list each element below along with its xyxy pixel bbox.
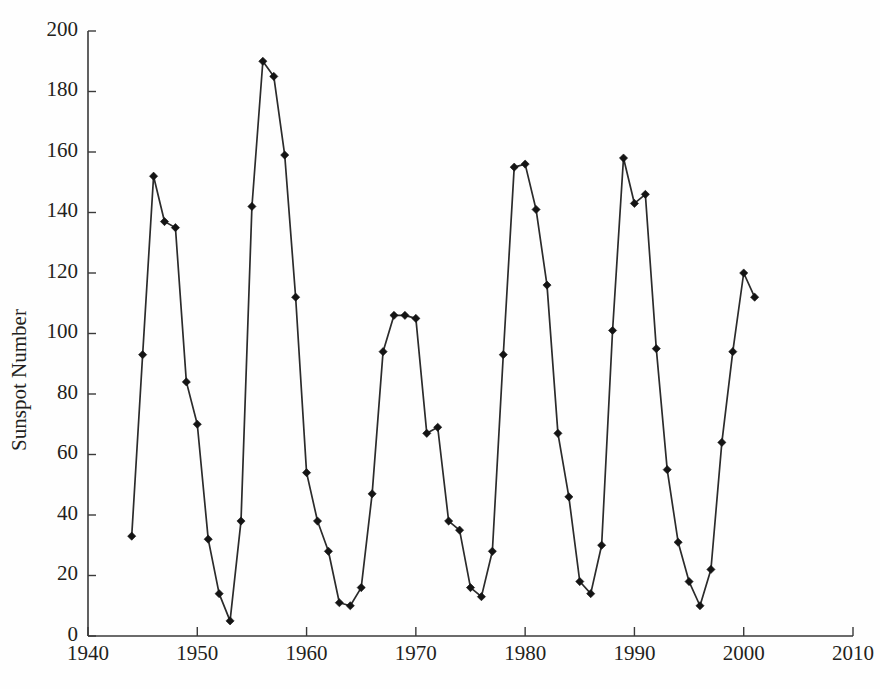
- data-point-marker: [619, 154, 627, 162]
- x-tick-label: 2010: [832, 641, 874, 665]
- data-point-marker: [565, 493, 573, 501]
- y-tick-label: 200: [47, 17, 79, 41]
- data-point-marker: [696, 602, 704, 610]
- data-point-marker: [608, 326, 616, 334]
- x-tick-label: 1970: [395, 641, 437, 665]
- data-point-marker: [292, 293, 300, 301]
- data-point-marker: [674, 538, 682, 546]
- data-point-marker: [412, 314, 420, 322]
- data-point-marker: [718, 438, 726, 446]
- data-point-marker: [434, 423, 442, 431]
- sunspot-number-chart: 020406080100120140160180200 194019501960…: [0, 0, 880, 689]
- x-tick-label: 1990: [613, 641, 655, 665]
- data-point-marker: [598, 541, 606, 549]
- x-tick-label: 1960: [286, 641, 328, 665]
- data-point-marker: [390, 311, 398, 319]
- data-point-marker: [204, 535, 212, 543]
- data-point-marker: [139, 351, 147, 359]
- x-tick-label: 1950: [176, 641, 218, 665]
- x-tick-label: 2000: [723, 641, 765, 665]
- data-point-marker: [160, 217, 168, 225]
- x-axis: 19401950196019701980199020002010: [67, 627, 874, 665]
- data-point-marker: [281, 151, 289, 159]
- data-point-marker: [379, 348, 387, 356]
- data-point-marker: [149, 172, 157, 180]
- y-tick-label: 20: [57, 561, 78, 585]
- y-tick-label: 40: [57, 501, 78, 525]
- data-point-marker: [215, 590, 223, 598]
- data-point-marker: [302, 469, 310, 477]
- y-tick-label: 120: [47, 259, 79, 283]
- y-tick-label: 180: [47, 77, 79, 101]
- data-point-markers: [128, 57, 759, 625]
- data-point-marker: [226, 617, 234, 625]
- x-tick-label: 1940: [67, 641, 109, 665]
- data-point-marker: [182, 378, 190, 386]
- data-point-marker: [171, 224, 179, 232]
- y-tick-label: 60: [57, 440, 78, 464]
- data-point-marker: [488, 547, 496, 555]
- data-point-marker: [423, 429, 431, 437]
- y-axis-title: Sunspot Number: [7, 309, 31, 451]
- y-tick-label: 80: [57, 380, 78, 404]
- data-point-marker: [335, 599, 343, 607]
- series-polyline: [132, 61, 755, 621]
- data-point-marker: [368, 490, 376, 498]
- data-point-marker: [357, 584, 365, 592]
- data-point-marker: [510, 163, 518, 171]
- data-point-marker: [346, 602, 354, 610]
- data-point-marker: [707, 565, 715, 573]
- data-point-marker: [248, 202, 256, 210]
- data-point-marker: [685, 577, 693, 585]
- data-point-marker: [521, 160, 529, 168]
- data-point-marker: [499, 351, 507, 359]
- data-point-marker: [740, 269, 748, 277]
- data-point-marker: [729, 348, 737, 356]
- data-point-marker: [324, 547, 332, 555]
- data-point-marker: [663, 466, 671, 474]
- data-point-marker: [554, 429, 562, 437]
- data-point-marker: [237, 517, 245, 525]
- data-point-marker: [543, 281, 551, 289]
- data-point-marker: [751, 293, 759, 301]
- data-point-marker: [313, 517, 321, 525]
- data-point-marker: [652, 345, 660, 353]
- y-axis: 020406080100120140160180200: [47, 17, 97, 646]
- data-point-marker: [128, 532, 136, 540]
- y-tick-label: 160: [47, 138, 79, 162]
- data-point-marker: [401, 311, 409, 319]
- x-tick-label: 1980: [504, 641, 546, 665]
- y-tick-label: 100: [47, 319, 79, 343]
- chart-canvas: 020406080100120140160180200 194019501960…: [0, 0, 880, 689]
- data-point-marker: [532, 205, 540, 213]
- data-series-line: [132, 61, 755, 621]
- y-tick-label: 140: [47, 198, 79, 222]
- data-point-marker: [193, 420, 201, 428]
